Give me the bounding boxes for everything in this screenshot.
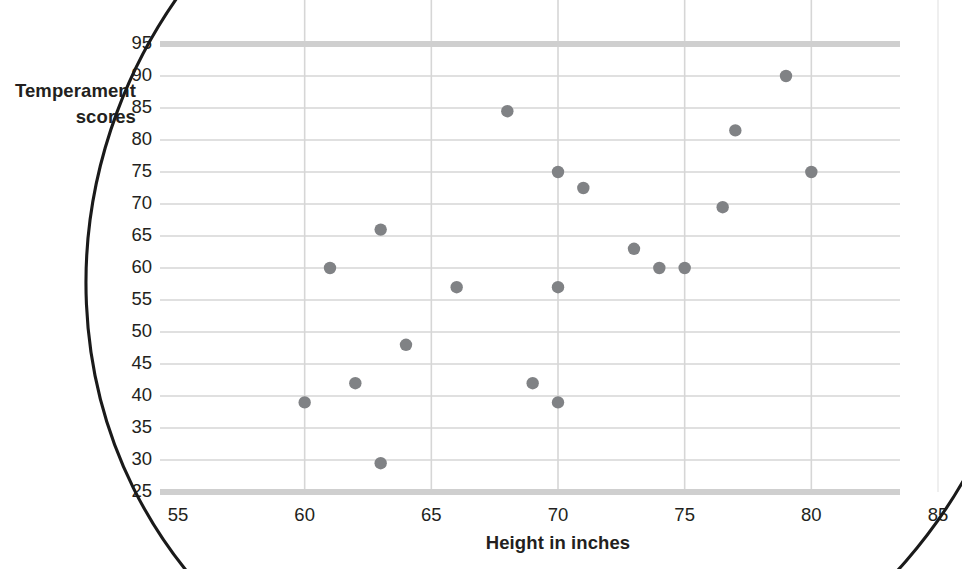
data-point bbox=[628, 243, 640, 255]
data-point bbox=[374, 223, 386, 235]
data-point bbox=[716, 201, 728, 213]
data-point bbox=[678, 262, 690, 274]
data-point bbox=[501, 105, 513, 117]
vertical-gridlines bbox=[305, 0, 938, 492]
data-point bbox=[324, 262, 336, 274]
data-point bbox=[805, 166, 817, 178]
data-point bbox=[552, 396, 564, 408]
data-point bbox=[577, 182, 589, 194]
data-point bbox=[349, 377, 361, 389]
data-point bbox=[298, 396, 310, 408]
data-point bbox=[450, 281, 462, 293]
envelope-ellipse bbox=[0, 0, 962, 569]
data-point bbox=[653, 262, 665, 274]
correlation-envelope-ellipse bbox=[0, 0, 962, 569]
data-point bbox=[400, 339, 412, 351]
data-point bbox=[780, 70, 792, 82]
data-point bbox=[552, 281, 564, 293]
data-point bbox=[374, 457, 386, 469]
data-point bbox=[729, 124, 741, 136]
data-point bbox=[526, 377, 538, 389]
data-point bbox=[552, 166, 564, 178]
horizontal-gridlines bbox=[160, 76, 900, 460]
